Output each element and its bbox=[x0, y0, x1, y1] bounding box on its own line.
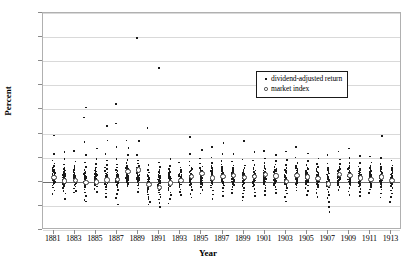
data-point bbox=[202, 189, 204, 191]
data-point bbox=[327, 189, 329, 191]
market-index-point bbox=[83, 180, 88, 185]
data-point bbox=[191, 183, 193, 185]
data-point bbox=[117, 186, 119, 188]
data-point bbox=[285, 201, 287, 203]
data-point bbox=[359, 195, 361, 197]
data-point bbox=[223, 142, 225, 144]
market-index-point bbox=[210, 175, 215, 180]
data-point bbox=[380, 197, 382, 199]
market-index-point bbox=[199, 171, 204, 176]
data-point bbox=[243, 187, 245, 189]
data-point bbox=[327, 154, 329, 156]
data-point bbox=[295, 157, 297, 159]
data-point bbox=[159, 169, 161, 171]
data-point bbox=[263, 150, 265, 152]
data-point bbox=[307, 160, 309, 162]
data-point bbox=[115, 123, 117, 125]
data-point bbox=[65, 193, 67, 195]
data-point bbox=[370, 165, 372, 167]
data-point bbox=[105, 153, 107, 155]
data-point bbox=[127, 185, 129, 187]
data-point bbox=[116, 146, 118, 148]
data-point bbox=[255, 170, 257, 172]
data-point bbox=[231, 161, 233, 163]
data-point bbox=[231, 192, 233, 194]
market-index-point bbox=[263, 172, 268, 177]
data-point bbox=[96, 158, 98, 160]
market-index-point bbox=[284, 179, 289, 184]
data-point bbox=[222, 191, 224, 193]
market-index-point bbox=[326, 181, 331, 186]
gridline bbox=[43, 37, 400, 38]
market-index-point bbox=[358, 175, 363, 180]
legend-item-dividend-adjusted-return: dividend-adjusted return bbox=[261, 74, 342, 84]
data-point bbox=[275, 192, 277, 194]
data-point bbox=[74, 165, 76, 167]
data-point bbox=[328, 206, 330, 208]
data-point bbox=[349, 162, 351, 164]
x-tick-label: 1913 bbox=[383, 235, 398, 243]
data-point bbox=[349, 157, 351, 159]
data-point bbox=[211, 157, 213, 159]
data-point bbox=[190, 193, 192, 195]
data-point bbox=[84, 192, 86, 194]
data-point bbox=[106, 164, 108, 166]
data-point bbox=[348, 148, 350, 150]
data-point bbox=[180, 194, 182, 196]
data-point bbox=[169, 165, 171, 167]
data-point bbox=[168, 203, 170, 205]
data-point bbox=[275, 154, 277, 156]
data-point bbox=[221, 164, 223, 166]
gridline bbox=[43, 61, 400, 62]
data-point bbox=[117, 189, 119, 191]
data-point bbox=[350, 185, 352, 187]
data-point bbox=[286, 167, 288, 169]
data-point bbox=[381, 135, 383, 137]
data-point bbox=[233, 184, 235, 186]
data-point bbox=[84, 189, 86, 191]
data-point bbox=[189, 136, 191, 138]
data-point bbox=[222, 187, 224, 189]
x-axis-title: Year bbox=[0, 248, 416, 258]
legend-label: dividend-adjusted return bbox=[271, 75, 342, 83]
data-point bbox=[105, 186, 107, 188]
data-point bbox=[169, 186, 171, 188]
x-tick-label: 1891 bbox=[150, 235, 165, 243]
data-point bbox=[317, 196, 319, 198]
data-point bbox=[106, 125, 108, 127]
data-point bbox=[148, 196, 150, 198]
gridline bbox=[43, 206, 400, 207]
market-index-point bbox=[62, 178, 67, 183]
data-point bbox=[264, 158, 266, 160]
data-point bbox=[137, 191, 139, 193]
data-point bbox=[180, 184, 182, 186]
data-point bbox=[180, 172, 182, 174]
data-point bbox=[242, 159, 244, 161]
data-point bbox=[96, 191, 98, 193]
data-point bbox=[158, 199, 160, 201]
data-point bbox=[64, 151, 66, 153]
data-point bbox=[254, 195, 256, 197]
x-tick-label: 1881 bbox=[45, 235, 60, 243]
market-index-point bbox=[157, 185, 162, 190]
data-point bbox=[391, 160, 393, 162]
data-point bbox=[137, 163, 139, 165]
market-index-point bbox=[294, 173, 299, 178]
data-point bbox=[391, 193, 393, 195]
data-point bbox=[359, 155, 361, 157]
chart-legend: dividend-adjusted return market index bbox=[256, 71, 348, 98]
data-point bbox=[199, 163, 201, 165]
legend-item-market-index: market index bbox=[261, 84, 342, 94]
data-point bbox=[116, 158, 118, 160]
data-point bbox=[243, 140, 245, 142]
data-point bbox=[307, 185, 309, 187]
data-point bbox=[306, 194, 308, 196]
data-point bbox=[106, 168, 108, 170]
data-point bbox=[328, 173, 330, 175]
data-point bbox=[106, 160, 108, 162]
market-index-point bbox=[379, 174, 384, 179]
market-index-point bbox=[125, 169, 130, 174]
data-point bbox=[117, 204, 119, 206]
data-point bbox=[380, 163, 382, 165]
data-point bbox=[381, 189, 383, 191]
